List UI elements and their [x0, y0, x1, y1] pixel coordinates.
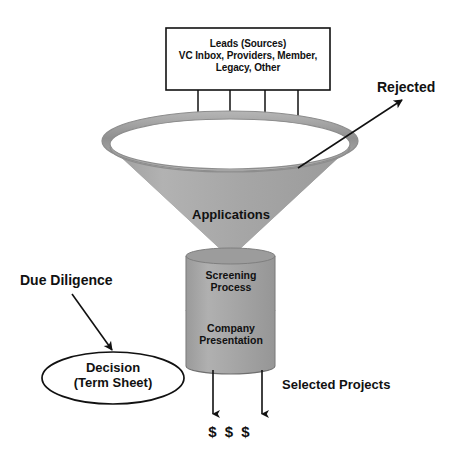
- company-line-2: Presentation: [199, 334, 263, 346]
- company-presentation-label: Company Presentation: [199, 322, 263, 347]
- company-line-1: Company: [199, 322, 263, 334]
- decision-line-2: (Term Sheet): [74, 375, 153, 390]
- funnel-diagram: Leads (Sources) VC Inbox, Providers, Mem…: [0, 0, 461, 455]
- decision-line-1: Decision: [74, 360, 153, 375]
- due-diligence-arrow: [72, 294, 112, 350]
- leads-line-1: Leads (Sources): [179, 38, 317, 50]
- leads-line-2: VC Inbox, Providers, Member,: [179, 50, 317, 62]
- screening-line-2: Process: [206, 281, 257, 293]
- selected-projects-arrows: [213, 370, 262, 414]
- selected-projects-label: Selected Projects: [282, 377, 390, 392]
- screening-line-1: Screening: [206, 269, 257, 281]
- leads-line-3: Legacy, Other: [179, 62, 317, 74]
- rejected-label: Rejected: [377, 79, 435, 96]
- applications-label: Applications: [192, 207, 270, 222]
- screening-process-label: Screening Process: [206, 269, 257, 294]
- leads-source-text: Leads (Sources) VC Inbox, Providers, Mem…: [179, 38, 317, 73]
- money-label: $ $ $: [208, 423, 251, 441]
- decision-label: Decision (Term Sheet): [74, 360, 153, 391]
- due-diligence-label: Due Diligence: [20, 272, 113, 289]
